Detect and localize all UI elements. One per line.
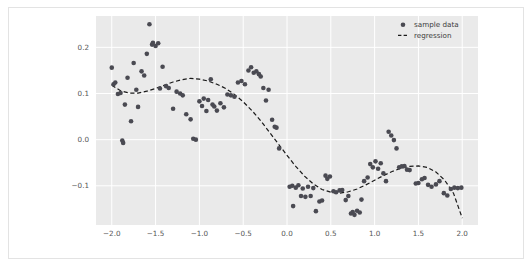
data-point[interactable] — [232, 94, 237, 99]
data-point[interactable] — [188, 117, 193, 122]
x-tick-label: −0.5 — [234, 229, 251, 238]
data-point[interactable] — [328, 174, 333, 179]
x-tick-label: 1.0 — [369, 229, 381, 238]
data-point[interactable] — [357, 210, 362, 215]
data-point[interactable] — [123, 102, 128, 107]
data-point[interactable] — [145, 52, 150, 57]
data-point[interactable] — [303, 195, 308, 200]
data-point[interactable] — [136, 105, 141, 110]
data-point[interactable] — [445, 193, 450, 198]
data-point[interactable] — [212, 104, 217, 109]
data-point[interactable] — [429, 184, 434, 189]
y-tick-label: 0.1 — [78, 89, 89, 98]
data-point[interactable] — [386, 130, 391, 135]
data-point[interactable] — [113, 80, 118, 85]
data-point[interactable] — [459, 185, 464, 190]
data-point[interactable] — [270, 118, 275, 123]
data-point[interactable] — [359, 197, 364, 202]
data-point[interactable] — [180, 93, 185, 98]
data-point[interactable] — [371, 165, 376, 170]
data-point[interactable] — [277, 146, 282, 151]
data-point[interactable] — [206, 98, 211, 103]
data-point[interactable] — [142, 73, 147, 78]
data-point[interactable] — [343, 198, 348, 203]
data-point[interactable] — [129, 119, 134, 124]
data-point[interactable] — [378, 161, 383, 166]
data-point[interactable] — [158, 86, 163, 91]
y-tick-label: 0.0 — [78, 135, 90, 144]
data-point[interactable] — [434, 182, 439, 187]
data-point[interactable] — [215, 108, 220, 113]
data-point[interactable] — [296, 183, 301, 188]
data-point[interactable] — [384, 179, 389, 184]
data-point[interactable] — [131, 61, 136, 66]
data-point[interactable] — [121, 141, 126, 146]
data-point[interactable] — [249, 65, 254, 70]
x-tick-label: 0.5 — [325, 229, 336, 238]
data-point[interactable] — [422, 176, 427, 181]
data-point[interactable] — [308, 194, 313, 199]
data-point[interactable] — [352, 213, 357, 218]
data-point[interactable] — [243, 82, 248, 87]
x-tick-label: 2.0 — [457, 229, 469, 238]
x-axis-tick-labels: −2.0−1.5−1.0−0.50.00.51.01.52.0 — [103, 229, 468, 238]
scatter-plot[interactable]: −2.0−1.5−1.0−0.50.00.51.01.52.0 −0.10.00… — [0, 0, 532, 267]
data-point[interactable] — [306, 184, 311, 189]
data-point[interactable] — [200, 104, 205, 109]
data-point[interactable] — [118, 91, 123, 96]
data-point[interactable] — [147, 22, 152, 27]
data-point[interactable] — [392, 138, 397, 143]
data-point[interactable] — [314, 209, 319, 214]
data-point[interactable] — [160, 64, 165, 69]
data-point[interactable] — [204, 109, 209, 114]
x-tick-label: −2.0 — [103, 229, 121, 238]
data-point[interactable] — [300, 186, 305, 191]
data-point[interactable] — [208, 77, 213, 82]
data-point[interactable] — [402, 164, 407, 169]
data-point[interactable] — [139, 69, 144, 74]
x-tick-label: −1.5 — [147, 229, 164, 238]
x-tick-label: −1.0 — [191, 229, 209, 238]
data-point[interactable] — [311, 186, 316, 191]
data-point[interactable] — [239, 79, 244, 84]
data-point[interactable] — [166, 86, 171, 91]
data-point[interactable] — [194, 137, 199, 142]
data-point[interactable] — [291, 204, 296, 209]
data-point[interactable] — [299, 194, 304, 199]
data-point[interactable] — [266, 88, 271, 93]
data-point[interactable] — [407, 168, 412, 173]
data-point[interactable] — [340, 188, 345, 193]
data-point[interactable] — [197, 99, 202, 104]
data-point[interactable] — [389, 133, 394, 138]
data-point[interactable] — [365, 175, 370, 180]
data-point[interactable] — [201, 96, 206, 101]
data-point[interactable] — [125, 76, 130, 81]
data-point[interactable] — [274, 125, 279, 130]
data-point[interactable] — [264, 98, 269, 103]
data-point[interactable] — [171, 106, 176, 111]
legend-label: sample data — [414, 20, 459, 29]
data-point[interactable] — [437, 179, 442, 184]
y-tick-label: −0.1 — [72, 181, 89, 190]
data-point[interactable] — [376, 166, 381, 171]
data-point[interactable] — [373, 159, 378, 164]
x-tick-label: 1.5 — [413, 229, 424, 238]
data-point[interactable] — [258, 74, 263, 79]
data-point[interactable] — [381, 171, 386, 176]
data-point[interactable] — [416, 181, 421, 186]
data-point[interactable] — [218, 101, 223, 106]
data-point[interactable] — [184, 112, 189, 117]
data-point[interactable] — [394, 146, 399, 151]
data-point[interactable] — [156, 41, 161, 46]
legend-marker-circle-icon — [401, 23, 406, 28]
data-point[interactable] — [222, 105, 227, 110]
data-point[interactable] — [261, 86, 266, 91]
data-point[interactable] — [346, 194, 351, 199]
chart-figure: −2.0−1.5−1.0−0.50.00.51.01.52.0 −0.10.00… — [0, 0, 532, 267]
data-point[interactable] — [109, 65, 114, 70]
y-tick-label: 0.2 — [78, 43, 89, 52]
x-tick-label: 0.0 — [281, 229, 293, 238]
data-point[interactable] — [320, 198, 325, 203]
data-point[interactable] — [362, 179, 367, 184]
data-point[interactable] — [134, 88, 139, 93]
